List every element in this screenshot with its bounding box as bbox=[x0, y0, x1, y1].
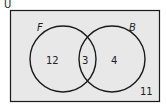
f-only-count: 12 bbox=[46, 55, 59, 66]
outside-count: 11 bbox=[140, 86, 153, 97]
universe-label: U bbox=[4, 0, 11, 10]
venn-diagram: U F B 12 3 4 11 bbox=[0, 0, 167, 106]
intersection-count: 3 bbox=[82, 55, 88, 66]
set-f-label: F bbox=[37, 22, 43, 33]
b-only-count: 4 bbox=[111, 55, 117, 66]
set-b-label: B bbox=[129, 22, 136, 33]
